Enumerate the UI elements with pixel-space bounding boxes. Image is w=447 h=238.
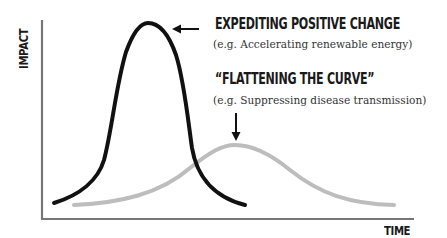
arrow-down-icon: [232, 113, 241, 141]
flatten-curve-title: “FLATTENING THE CURVE”: [215, 70, 374, 88]
flatten-curve-subtitle: (e.g. Suppressing disease transmission): [213, 93, 426, 107]
flat-curve-line: [74, 145, 394, 205]
chart-canvas: [0, 0, 447, 238]
arrow-left-icon: [172, 25, 199, 34]
y-axis-label: IMPACT: [16, 29, 31, 69]
positive-change-title: EXPEDITING POSITIVE CHANGE: [215, 15, 400, 33]
x-axis-label: TIME: [384, 223, 410, 238]
positive-change-subtitle: (e.g. Accelerating renewable energy): [213, 37, 412, 51]
